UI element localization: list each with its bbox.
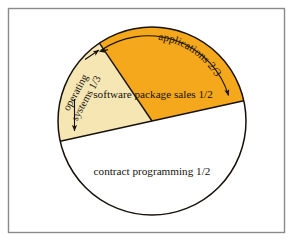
label-software-package-sales: software package sales 1/2: [93, 88, 213, 100]
label-contract-programming: contract programming 1/2: [94, 165, 211, 177]
pie-diagram-svg: applications 2/3 operating systems 1/3 s…: [0, 0, 293, 245]
figure-container: applications 2/3 operating systems 1/3 s…: [0, 0, 293, 245]
